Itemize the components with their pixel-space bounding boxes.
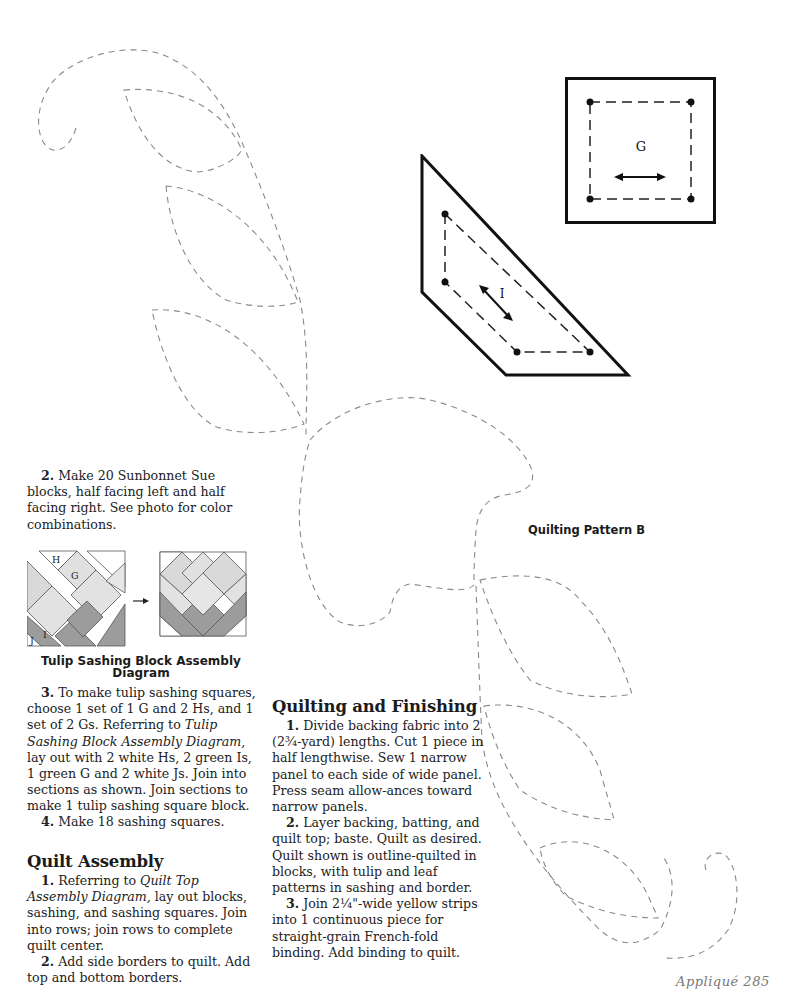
leaf-2 (166, 186, 298, 306)
leaf-6 (540, 842, 658, 918)
quilt-assembly-section: Quilt Assembly 1. Referring to Quilt Top… (27, 852, 263, 986)
leaf-3 (152, 310, 304, 433)
section-heading: Quilting and Finishing (272, 697, 488, 716)
step-number: 4. (41, 814, 54, 829)
curl-top-left (39, 50, 307, 436)
assembly-step-2: 2. Add side borders to quilt. Add top an… (27, 954, 263, 986)
section-heading: Quilt Assembly (27, 852, 263, 871)
leaf-5 (484, 705, 614, 820)
label-h: H (52, 554, 60, 565)
label-g: G (71, 570, 79, 581)
curl-bottom-right (664, 853, 737, 958)
template-i-trapezoid: I (420, 154, 632, 378)
quilting-finishing-section: Quilting and Finishing 1. Divide backing… (272, 697, 488, 961)
template-i-label: I (500, 287, 505, 301)
tulip-sashing-assembly-diagram: H G I J (27, 549, 247, 649)
leaf-1 (124, 89, 242, 172)
step-4-paragraph: 4. Make 18 sashing squares. (27, 814, 259, 830)
bonnet-shape (299, 398, 532, 626)
step-2-paragraph: 2. Make 20 Sunbonnet Sue blocks, half fa… (27, 468, 255, 533)
pattern-label: Quilting Pattern B (528, 523, 645, 537)
label-i: I (43, 629, 47, 640)
finishing-step-1: 1. Divide backing fabric into 2 (2¾-yard… (272, 718, 488, 815)
template-g-label: G (636, 139, 646, 154)
diagram-caption: Tulip Sashing Block Assembly Diagram (27, 655, 255, 679)
assembly-step-1: 1. Referring to Quilt Top Assembly Diagr… (27, 873, 263, 954)
page-folio: Appliqué 285 (676, 974, 770, 989)
finishing-step-2: 2. Layer backing, batting, and quilt top… (272, 815, 488, 896)
step-number: 2. (41, 468, 54, 483)
step-3-paragraph: 3. To make tulip sashing squares, choose… (27, 685, 259, 815)
leaf-4 (480, 576, 632, 697)
step-number: 3. (41, 685, 54, 700)
finishing-step-3: 3. Join 2¼"-wide yellow strips into 1 co… (272, 896, 488, 961)
label-j: J (29, 635, 34, 646)
